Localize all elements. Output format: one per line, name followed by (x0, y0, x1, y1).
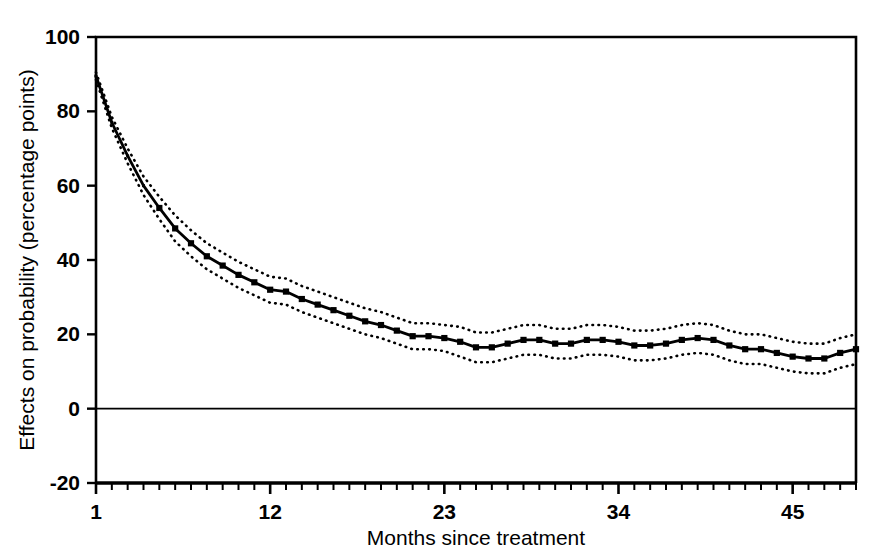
data-point-marker (536, 337, 542, 343)
data-point-marker (110, 121, 113, 124)
data-point-marker (568, 341, 574, 347)
y-tick-label: 40 (57, 248, 80, 271)
data-point-marker (142, 184, 145, 187)
data-point-marker (251, 279, 257, 285)
data-point-marker (758, 346, 764, 352)
chart-background (0, 0, 874, 559)
line-chart: -20020406080100 112233445 Effects on pro… (0, 0, 874, 559)
data-point-marker (853, 346, 859, 352)
data-point-marker (126, 154, 129, 157)
data-point-marker (425, 333, 431, 339)
x-tick-label: 45 (781, 500, 805, 523)
y-tick-label: 60 (57, 174, 80, 197)
data-point-marker (394, 328, 400, 334)
x-tick-label: 23 (433, 500, 456, 523)
y-tick-label: 80 (57, 99, 80, 122)
data-point-marker (774, 350, 780, 356)
data-point-marker (188, 240, 194, 246)
y-axis-title: Effects on probability (percentage point… (15, 69, 38, 450)
data-point-marker (95, 75, 98, 78)
data-point-marker (742, 346, 748, 352)
data-point-marker (615, 339, 621, 345)
data-point-marker (156, 205, 162, 211)
data-point-marker (505, 341, 511, 347)
x-tick-label: 12 (258, 500, 281, 523)
data-point-marker (362, 318, 368, 324)
data-point-marker (679, 337, 685, 343)
data-point-marker (647, 342, 653, 348)
data-point-marker (837, 350, 843, 356)
data-point-marker (584, 337, 590, 343)
data-point-marker (441, 335, 447, 341)
data-point-marker (821, 355, 827, 361)
y-tick-label: 0 (68, 397, 80, 420)
data-point-marker (299, 296, 305, 302)
data-point-marker (267, 287, 273, 293)
x-tick-label: 34 (607, 500, 631, 523)
y-tick-label: 20 (57, 322, 80, 345)
y-tick-label: -20 (50, 471, 80, 494)
data-point-marker (663, 341, 669, 347)
data-point-marker (790, 354, 796, 360)
data-point-marker (283, 288, 289, 294)
data-point-marker (378, 322, 384, 328)
chart-figure: -20020406080100 112233445 Effects on pro… (0, 0, 874, 559)
data-point-marker (204, 253, 210, 259)
data-point-marker (805, 355, 811, 361)
y-tick-label: 100 (45, 25, 80, 48)
data-point-marker (235, 272, 241, 278)
data-point-marker (710, 337, 716, 343)
x-tick-label: 1 (90, 500, 102, 523)
data-point-marker (330, 307, 336, 313)
data-point-marker (600, 337, 606, 343)
data-point-marker (489, 344, 495, 350)
data-point-marker (520, 337, 526, 343)
data-point-marker (172, 225, 178, 231)
data-point-marker (315, 302, 321, 308)
data-point-marker (473, 344, 479, 350)
data-point-marker (552, 341, 558, 347)
x-axis-title: Months since treatment (367, 526, 585, 549)
data-point-marker (726, 342, 732, 348)
data-point-marker (631, 342, 637, 348)
data-point-marker (220, 262, 226, 268)
data-point-marker (695, 335, 701, 341)
data-point-marker (457, 339, 463, 345)
data-point-marker (346, 313, 352, 319)
data-point-marker (410, 333, 416, 339)
